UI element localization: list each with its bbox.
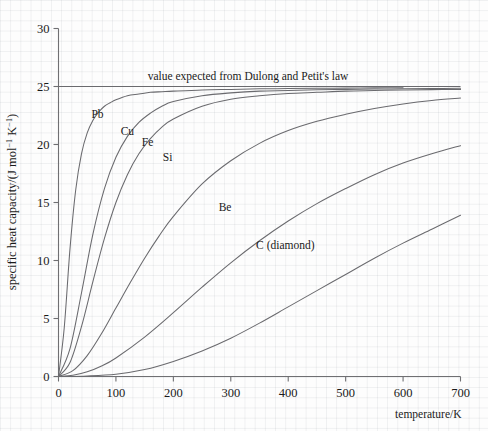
- x-axis-tick-label: 500: [336, 386, 355, 400]
- y-axis-tick-label: 25: [37, 80, 50, 94]
- x-axis-tick-label: 700: [451, 386, 470, 400]
- x-axis-tick-label: 100: [107, 386, 126, 400]
- curve-label-pb: Pb: [91, 108, 103, 120]
- y-axis-tick-label: 15: [37, 196, 50, 210]
- y-axis-tick-label: 0: [43, 370, 49, 384]
- curve-label-si: Si: [163, 151, 173, 163]
- curve-label-c-diamond-: C (diamond): [256, 239, 315, 252]
- curve-label-cu: Cu: [121, 125, 135, 137]
- x-axis-tick-label: 300: [221, 386, 240, 400]
- x-axis-tick-label: 600: [394, 386, 413, 400]
- y-axis-title: specific heat capacity/(J mol−1 K−1): [5, 114, 19, 290]
- y-axis-tick-label: 20: [37, 138, 50, 152]
- curve-label-be: Be: [219, 201, 232, 213]
- y-axis-tick-label: 10: [37, 254, 50, 268]
- figure-canvas: 0510152025300100200300400500600700temper…: [0, 0, 488, 431]
- curve-si: [59, 98, 461, 376]
- curve-cu: [59, 88, 461, 376]
- curve-fe: [59, 89, 461, 376]
- y-axis-tick-label: 30: [37, 22, 50, 36]
- y-axis-tick-label: 5: [43, 312, 49, 326]
- curve-be: [59, 146, 461, 377]
- x-axis-title: temperature/K: [395, 408, 462, 421]
- heat-capacity-chart: 0510152025300100200300400500600700temper…: [0, 0, 488, 431]
- x-axis-tick-label: 400: [279, 386, 298, 400]
- curve-pb: [59, 88, 404, 377]
- dulong-petit-note: value expected from Dulong and Petit's l…: [148, 70, 349, 83]
- x-axis-tick-label: 200: [164, 386, 183, 400]
- x-axis-tick-label: 0: [55, 386, 61, 400]
- curve-label-fe: Fe: [142, 136, 154, 148]
